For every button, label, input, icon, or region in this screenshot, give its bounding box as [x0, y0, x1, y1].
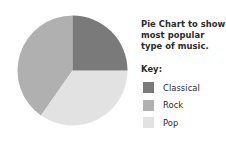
pie-chart-figure: Pie Chart to show most popular type of m…: [0, 0, 226, 142]
legend-item-rock: Rock: [141, 97, 226, 115]
legend-panel: Pie Chart to show most popular type of m…: [141, 0, 226, 142]
legend-swatch-pop: [143, 117, 154, 128]
legend-label-rock: Rock: [163, 100, 183, 110]
chart-title: Pie Chart to show most popular type of m…: [141, 19, 226, 53]
legend-item-classical: Classical: [141, 79, 226, 97]
legend-label-classical: Classical: [163, 83, 200, 93]
legend-swatch-classical: [143, 82, 154, 93]
legend-item-pop: Pop: [141, 114, 226, 132]
legend-items: Classical Rock Pop: [141, 79, 226, 132]
legend-swatch-rock: [143, 100, 154, 111]
pie-chart-svg: [17, 15, 128, 126]
legend-label-pop: Pop: [163, 118, 178, 128]
legend-title: Key:: [141, 64, 162, 74]
pie-chart-area: [0, 0, 138, 142]
pie-slice-classical: [73, 16, 128, 71]
